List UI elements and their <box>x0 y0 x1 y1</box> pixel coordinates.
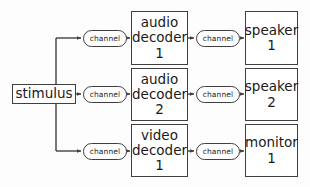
channel-oval-row1-out[interactable]: channel <box>196 30 240 47</box>
node-audio-decoder-1-line-2: decoder <box>132 30 187 45</box>
diagram-canvas: stimulus channel audio decoder 1 channel… <box>0 0 310 187</box>
channel-oval-row1-out-label: channel <box>203 34 233 43</box>
node-monitor-1-line-2: 1 <box>267 151 276 166</box>
channel-oval-row2-out[interactable]: channel <box>196 86 240 103</box>
node-speaker-1[interactable]: speaker 1 <box>245 11 298 65</box>
node-stimulus-label: stimulus <box>15 86 72 101</box>
channel-oval-row2-out-label: channel <box>203 90 233 99</box>
node-monitor-1-line-1: monitor <box>245 135 298 150</box>
node-audio-decoder-1[interactable]: audio decoder 1 <box>131 11 188 65</box>
node-speaker-2-line-1: speaker <box>245 79 298 94</box>
channel-oval-row3-in[interactable]: channel <box>83 143 127 160</box>
channel-oval-row2-in-label: channel <box>90 90 120 99</box>
node-speaker-2-line-2: 2 <box>267 95 276 110</box>
channel-oval-row3-out[interactable]: channel <box>196 143 240 160</box>
channel-oval-row3-in-label: channel <box>90 147 120 156</box>
node-monitor-1[interactable]: monitor 1 <box>245 124 298 177</box>
node-speaker-1-line-2: 1 <box>267 38 276 53</box>
node-audio-decoder-2-line-3: 2 <box>155 102 164 117</box>
node-audio-decoder-1-line-3: 1 <box>155 46 164 61</box>
node-video-decoder-1-line-2: decoder <box>132 143 187 158</box>
node-video-decoder-1-line-3: 1 <box>155 158 164 173</box>
node-video-decoder-1[interactable]: video decoder 1 <box>131 124 188 177</box>
node-speaker-1-line-1: speaker <box>245 23 298 38</box>
channel-oval-row3-out-label: channel <box>203 147 233 156</box>
node-speaker-2[interactable]: speaker 2 <box>245 68 298 121</box>
channel-oval-row1-in-label: channel <box>90 34 120 43</box>
node-audio-decoder-2[interactable]: audio decoder 2 <box>131 68 188 121</box>
node-audio-decoder-2-line-1: audio <box>141 72 178 87</box>
channel-oval-row1-in[interactable]: channel <box>83 30 127 47</box>
channel-oval-row2-in[interactable]: channel <box>83 86 127 103</box>
node-audio-decoder-2-line-2: decoder <box>132 87 187 102</box>
node-video-decoder-1-line-1: video <box>141 128 178 143</box>
node-audio-decoder-1-line-1: audio <box>141 15 178 30</box>
node-stimulus[interactable]: stimulus <box>12 84 76 104</box>
